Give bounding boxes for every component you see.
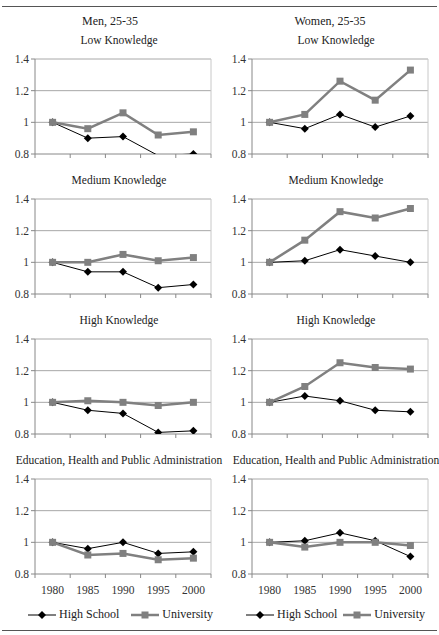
square-marker xyxy=(337,539,344,546)
square-marker xyxy=(301,111,308,118)
diamond-marker xyxy=(154,428,162,436)
legend-women: High School University xyxy=(246,607,425,622)
chart-title: Medium Knowledge xyxy=(289,174,384,187)
x-tick-label: 1995 xyxy=(364,584,387,596)
square-marker xyxy=(337,359,344,366)
diamond-marker xyxy=(301,257,309,265)
x-tick-label: 1980 xyxy=(258,584,281,596)
chart-title: Education, Health and Public Administrat… xyxy=(233,454,439,467)
y-tick-label: 0.8 xyxy=(15,288,30,300)
legend-label: High School xyxy=(277,607,337,622)
chart-title: High Knowledge xyxy=(80,314,159,327)
chart-title: Low Knowledge xyxy=(298,34,375,47)
line-chart-panel: Education, Health and Public Administrat… xyxy=(15,454,223,596)
diamond-marker xyxy=(189,281,197,289)
x-tick-label: 1990 xyxy=(112,584,135,596)
chart-title: Low Knowledge xyxy=(81,34,158,47)
square-marker xyxy=(190,128,197,135)
square-marker xyxy=(190,399,197,406)
diamond-marker xyxy=(406,553,414,561)
y-tick-label: 1.4 xyxy=(232,193,247,205)
y-tick-label: 1.4 xyxy=(232,53,247,65)
square-marker xyxy=(84,125,91,132)
line-chart-panel: Medium Knowledge0.811.21.4 xyxy=(15,174,211,300)
legend-label: University xyxy=(162,607,213,622)
square-marker xyxy=(337,208,344,215)
square-marker xyxy=(301,383,308,390)
bottom-rule xyxy=(2,630,437,631)
legend-item-university: University xyxy=(343,607,425,622)
diamond-marker xyxy=(336,529,344,537)
x-tick-label: 1985 xyxy=(76,584,99,596)
y-tick-label: 1 xyxy=(23,536,29,548)
y-tick-label: 1 xyxy=(23,256,29,268)
square-marker xyxy=(155,132,162,139)
line-chart-panel: Medium Knowledge0.811.21.4 xyxy=(232,174,428,300)
diamond-marker xyxy=(406,258,414,266)
square-marker xyxy=(266,399,273,406)
x-tick-label: 1980 xyxy=(41,584,64,596)
diamond-marker xyxy=(189,150,197,158)
diamond-marker xyxy=(84,268,92,276)
square-marker xyxy=(84,259,91,266)
square-marker-icon xyxy=(131,610,159,620)
university-series-line xyxy=(270,363,411,403)
square-marker xyxy=(120,399,127,406)
y-tick-label: 0.8 xyxy=(15,428,30,440)
square-marker xyxy=(407,67,414,74)
square-marker xyxy=(49,259,56,266)
y-tick-label: 0.8 xyxy=(232,148,247,160)
diamond-marker xyxy=(189,548,197,556)
x-tick-label: 1990 xyxy=(329,584,352,596)
legend-item-high-school: High School xyxy=(246,607,337,622)
square-marker xyxy=(120,109,127,116)
square-marker xyxy=(49,539,56,546)
y-tick-label: 0.8 xyxy=(15,148,30,160)
y-tick-label: 1 xyxy=(240,116,246,128)
y-tick-label: 1.4 xyxy=(15,193,30,205)
diamond-marker xyxy=(154,284,162,292)
diamond-marker xyxy=(336,110,344,118)
x-tick-label: 2000 xyxy=(182,584,205,596)
y-tick-label: 1.4 xyxy=(15,333,30,345)
diamond-marker xyxy=(84,134,92,142)
legend-label: High School xyxy=(59,607,119,622)
square-marker xyxy=(84,397,91,404)
university-series-line xyxy=(270,209,411,263)
square-marker xyxy=(155,402,162,409)
y-tick-label: 1 xyxy=(240,396,246,408)
diamond-marker xyxy=(371,252,379,260)
y-tick-label: 1.4 xyxy=(232,473,247,485)
diamond-marker-icon xyxy=(246,610,274,620)
y-tick-label: 1 xyxy=(240,256,246,268)
square-marker xyxy=(49,119,56,126)
y-tick-label: 1.2 xyxy=(15,365,30,377)
diamond-marker xyxy=(119,538,127,546)
square-marker xyxy=(372,364,379,371)
square-marker xyxy=(372,97,379,104)
y-tick-label: 0.8 xyxy=(232,288,247,300)
y-tick-label: 1.2 xyxy=(15,85,30,97)
diamond-marker xyxy=(336,246,344,254)
y-tick-label: 1.2 xyxy=(15,505,30,517)
line-chart-panel: Low Knowledge0.811.21.4 xyxy=(232,34,428,160)
chart-title: Medium Knowledge xyxy=(72,174,167,187)
y-tick-label: 0.8 xyxy=(15,568,30,580)
square-marker xyxy=(301,237,308,244)
diamond-marker xyxy=(119,133,127,141)
line-chart-panel: High Knowledge0.811.21.4 xyxy=(15,314,211,440)
square-marker-icon xyxy=(343,610,371,620)
diamond-marker-icon xyxy=(28,610,56,620)
diamond-marker xyxy=(301,125,309,133)
square-marker xyxy=(49,399,56,406)
legend-item-university: University xyxy=(131,607,213,622)
diamond-marker xyxy=(84,545,92,553)
chart-title: Education, Health and Public Administrat… xyxy=(16,454,223,467)
diamond-marker xyxy=(406,112,414,120)
diamond-marker xyxy=(301,392,309,400)
chart-grid: Low Knowledge0.811.21.4Low Knowledge0.81… xyxy=(0,0,439,635)
diamond-marker xyxy=(119,268,127,276)
square-marker xyxy=(190,254,197,261)
y-tick-label: 1.2 xyxy=(232,225,247,237)
square-marker xyxy=(301,544,308,551)
